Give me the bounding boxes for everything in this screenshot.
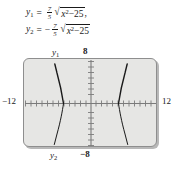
equation-y1-radicand: x2−25 (60, 7, 84, 19)
equation-y2-fraction: 7 5 (52, 22, 57, 37)
equation-y1-trailing: , (85, 8, 87, 18)
equation-y1-radical: √ x2−25 (54, 6, 84, 19)
equation-y1-lhs: y1 (26, 7, 33, 18)
equation-y2-sign: − (45, 25, 50, 35)
equation-y2-subscript: 2 (30, 28, 33, 35)
calculator-graph: −12 12 8 −8 y1 y2 (0, 46, 182, 170)
curve-y1-right-branch (119, 64, 128, 104)
equation-y1-subscript: 1 (30, 11, 33, 18)
equation-y1: y1 = 7 5 √ x2−25 , (26, 4, 176, 21)
equation-y1-denominator: 5 (47, 12, 52, 20)
curve-label-y1: y1 (52, 47, 59, 58)
curve-y1-left-branch (55, 64, 64, 104)
curve-label-y1-subscript: 1 (56, 51, 59, 58)
equation-y2: y2 = − 7 5 √ x2−25 (26, 21, 176, 38)
calculator-screen (23, 58, 157, 147)
equation-y2-lhs: y2 (26, 24, 33, 35)
equation-y1-numerator: 7 (47, 5, 52, 12)
equation-y2-constant: 25 (79, 26, 89, 36)
x-min-label: −12 (2, 96, 16, 106)
curve-y2-right-branch (119, 104, 128, 145)
radical-sign-icon: √ (60, 23, 65, 36)
y-min-label: −8 (80, 149, 90, 159)
curve-y2-left-branch (54, 104, 63, 145)
equation-y2-radicand: x2−25 (66, 24, 90, 36)
curve-label-y2: y2 (50, 150, 57, 161)
equation-y2-equals-sign: = (36, 25, 41, 35)
equation-y2-radical: √ x2−25 (60, 23, 90, 36)
equation-y1-constant: 25 (74, 9, 84, 19)
x-max-label: 12 (162, 96, 171, 106)
y-max-label: 8 (83, 46, 88, 56)
equation-y2-numerator: 7 (52, 22, 57, 29)
equation-y1-fraction: 7 5 (47, 5, 52, 20)
equation-y1-equals-sign: = (36, 8, 41, 18)
graph-svg (24, 59, 157, 147)
radical-sign-icon: √ (55, 6, 60, 19)
equation-y2-denominator: 5 (52, 29, 57, 37)
equation-list: y1 = 7 5 √ x2−25 , y2 = − 7 5 √ x2−25 (26, 4, 176, 38)
curve-label-y2-subscript: 2 (54, 154, 57, 161)
